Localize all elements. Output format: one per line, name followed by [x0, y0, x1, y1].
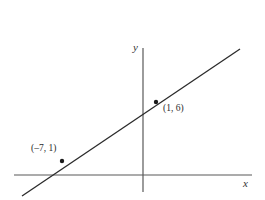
- x-axis-label: x: [243, 178, 248, 189]
- point-label-neg7-1: (–7, 1): [31, 144, 56, 154]
- y-axis-label: y: [133, 42, 138, 53]
- graph-figure: y x (1, 6) (–7, 1): [0, 0, 265, 200]
- data-point-marker: [154, 100, 158, 104]
- plotted-line: [22, 49, 240, 196]
- plot-canvas: [0, 0, 265, 200]
- data-point-marker: [60, 159, 64, 163]
- point-label-1-6: (1, 6): [163, 104, 184, 114]
